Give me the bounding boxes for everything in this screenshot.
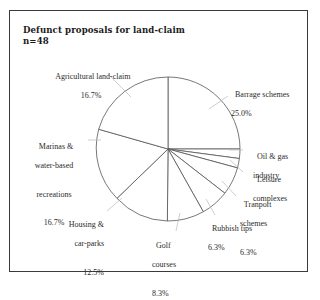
slice-label-golf-courses: Golf courses 8.3% bbox=[152, 231, 212, 300]
slice-label-housing-line2: car-parks bbox=[28, 239, 104, 249]
slice-label-leisure-line1: Leisure bbox=[257, 175, 281, 184]
slice-label-marinas-line1: Marinas & bbox=[39, 142, 73, 151]
pie-slice-barrage-schemes[interactable] bbox=[168, 77, 240, 149]
slice-label-barrage-text: Barrage schemes bbox=[235, 90, 289, 99]
slice-label-rubbish-text: Rubbish tips bbox=[212, 224, 252, 233]
slice-pct-rubbish: 6.3% bbox=[208, 243, 282, 253]
slice-label-golf-line2: courses bbox=[152, 260, 212, 270]
slice-label-golf-line1: Golf bbox=[156, 241, 171, 250]
slice-label-agricultural-text: Agricultural land-claim bbox=[55, 72, 130, 81]
slice-label-oilgas-line1: Oil & gas bbox=[257, 152, 288, 161]
slice-label-rubbish-tips: Rubbish tips 6.3% bbox=[208, 214, 282, 262]
slice-label-marinas-line3: recreations bbox=[17, 190, 91, 200]
slice-label-marinas-water-based-recreations: Marinas & water-based recreations 16.7% bbox=[17, 132, 91, 238]
slice-pct-housing: 12.5% bbox=[28, 268, 104, 278]
slice-label-tranport-line1: Tranport bbox=[244, 200, 272, 209]
slice-pct-agricultural: 16.7% bbox=[27, 91, 155, 101]
slice-pct-barrage: 25.0% bbox=[231, 109, 317, 119]
slice-label-barrage-schemes: Barrage schemes 25.0% bbox=[231, 80, 317, 128]
leader-line-housing bbox=[107, 198, 122, 211]
slice-label-agricultural-land-claim: Agricultural land-claim 16.7% bbox=[27, 62, 155, 110]
slice-pct-marinas: 16.7% bbox=[17, 218, 91, 228]
slice-pct-golf: 8.3% bbox=[152, 289, 212, 299]
slice-label-marinas-line2: water-based bbox=[17, 161, 91, 171]
